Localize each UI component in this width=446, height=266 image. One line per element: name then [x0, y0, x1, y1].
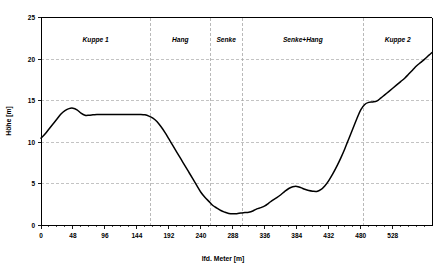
x-axis-title: lfd. Meter [m] — [202, 255, 245, 263]
x-tick-label-240: 240 — [195, 232, 206, 239]
x-tick-label-0: 0 — [39, 232, 43, 239]
x-tick-label-144: 144 — [131, 232, 142, 239]
y-tick-label-20: 20 — [28, 56, 36, 63]
region-label-3: Senke+Hang — [283, 36, 323, 44]
region-label-2: Senke — [216, 36, 236, 43]
x-tick-label-432: 432 — [323, 232, 334, 239]
x-tick-label-48: 48 — [69, 232, 77, 239]
region-label-1: Hang — [172, 36, 188, 44]
y-tick-label-5: 5 — [31, 180, 35, 187]
x-tick-label-192: 192 — [163, 232, 174, 239]
region-label-0: Kuppe 1 — [83, 36, 109, 44]
x-tick-label-528: 528 — [387, 232, 398, 239]
elevation-profile-chart: 04896144192240288336384432480528 0510152… — [0, 0, 446, 266]
y-tick-label-10: 10 — [28, 139, 36, 146]
y-tick-label-15: 15 — [28, 97, 36, 104]
y-axis-title: Höhe [m] — [5, 106, 13, 135]
region-label-4: Kuppe 2 — [385, 36, 411, 44]
y-tick-label-25: 25 — [28, 14, 36, 21]
chart-canvas: 04896144192240288336384432480528 0510152… — [0, 0, 446, 266]
x-tick-label-480: 480 — [355, 232, 366, 239]
x-tick-label-288: 288 — [227, 232, 238, 239]
y-tick-label-0: 0 — [31, 222, 35, 229]
x-tick-label-384: 384 — [291, 232, 302, 239]
x-tick-label-336: 336 — [259, 232, 270, 239]
x-tick-label-96: 96 — [101, 232, 109, 239]
